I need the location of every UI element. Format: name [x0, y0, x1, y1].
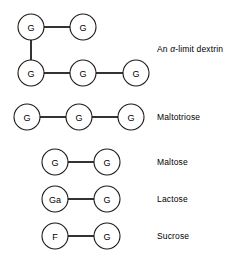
sugar-unit-node: G	[18, 60, 44, 86]
sugar-unit-label: F	[52, 232, 58, 242]
carbohydrate-structures-diagram: GGGGGGGGGGGaGFG An α-limit dextrinMaltot…	[0, 0, 243, 261]
sugar-unit-node: G	[42, 149, 68, 175]
structure-label-lactose: Lactose	[157, 195, 188, 204]
sugar-unit-label: G	[79, 23, 86, 33]
sugar-unit-label: G	[127, 113, 134, 123]
structure-label-maltose: Maltose	[157, 158, 188, 167]
sugar-unit-label: G	[27, 23, 34, 33]
structure-label-alpha-limit-dextrin: An α-limit dextrin	[157, 45, 223, 54]
sugar-unit-label: G	[103, 232, 110, 242]
sugar-unit-node: G	[118, 104, 144, 130]
sugar-unit-label: G	[27, 69, 34, 79]
sugar-unit-node: Ga	[42, 186, 68, 212]
structure-label-sucrose: Sucrose	[157, 232, 189, 241]
sugar-unit-node: G	[70, 60, 96, 86]
sugar-unit-node: G	[94, 149, 120, 175]
sugar-unit-node: G	[123, 60, 149, 86]
sugar-unit-label: G	[23, 113, 30, 123]
sugar-unit-node: G	[94, 186, 120, 212]
label-text: Maltose	[157, 157, 188, 167]
sugar-unit-label: G	[75, 113, 82, 123]
label-text: Lactose	[157, 194, 188, 204]
label-text: Maltotriose	[157, 112, 200, 122]
sugar-unit-label: G	[51, 158, 58, 168]
sugar-unit-node: G	[18, 14, 44, 40]
sugar-unit-label: G	[103, 195, 110, 205]
sugar-unit-node: G	[94, 223, 120, 249]
sugar-unit-label: G	[132, 69, 139, 79]
sugar-unit-label: G	[79, 69, 86, 79]
sugar-unit-label: G	[103, 158, 110, 168]
label-text-prefix: An	[157, 44, 170, 54]
sugar-unit-node: F	[42, 223, 68, 249]
sugar-unit-label: Ga	[49, 195, 61, 205]
sugar-unit-node: G	[70, 14, 96, 40]
diagram-canvas: GGGGGGGGGGGaGFG	[0, 0, 243, 261]
sugar-unit-node: G	[14, 104, 40, 130]
label-text-suffix: -limit dextrin	[175, 44, 223, 54]
label-text: Sucrose	[157, 231, 189, 241]
nodes-layer: GGGGGGGGGGGaGFG	[14, 14, 149, 249]
structure-label-maltotriose: Maltotriose	[157, 113, 200, 122]
sugar-unit-node: G	[66, 104, 92, 130]
